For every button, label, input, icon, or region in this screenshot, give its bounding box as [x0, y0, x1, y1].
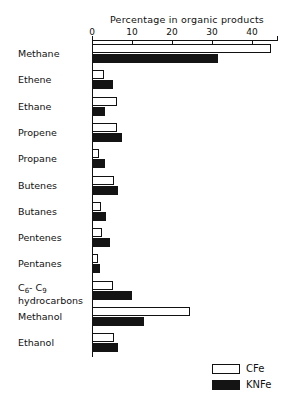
legend-label-cfe: CFe	[246, 363, 264, 374]
bar-knfe-ethane	[92, 107, 105, 116]
category-label-butanes: Butanes	[18, 206, 57, 218]
bar-knfe-methane	[92, 54, 218, 63]
category-label-pentenes: Pentenes	[18, 232, 62, 244]
x-tick-20	[172, 40, 173, 44]
category-label-pentanes: Pentanes	[18, 258, 62, 270]
x-tick-10	[132, 40, 133, 44]
bar-knfe-ethanol	[92, 343, 118, 352]
bar-knfe-propane	[92, 159, 105, 168]
bar-knfe-pentenes	[92, 238, 110, 247]
bar-cfe-pentenes	[92, 228, 102, 237]
bar-chart: Percentage in organic products 010203040…	[0, 0, 289, 408]
category-label-propene: Propene	[18, 127, 57, 139]
plot-area	[92, 41, 277, 357]
bar-knfe-butenes	[92, 186, 118, 195]
category-label-butenes: Butenes	[18, 180, 57, 192]
bar-cfe-ethanol	[92, 333, 114, 342]
bar-cfe-propene	[92, 123, 117, 132]
legend-label-knfe: KNFe	[246, 379, 271, 390]
bar-cfe-butenes	[92, 176, 114, 185]
x-tick-label-20: 20	[166, 27, 177, 37]
bar-cfe-propane	[92, 149, 99, 158]
x-tick-40	[252, 40, 253, 44]
bar-cfe-pentanes	[92, 254, 98, 263]
category-label-ethene: Ethene	[18, 74, 51, 86]
bar-knfe-pentanes	[92, 264, 100, 273]
category-label-methane: Methane	[18, 48, 59, 60]
bar-cfe-methane	[92, 44, 271, 53]
category-label-ethane: Ethane	[18, 101, 51, 113]
bar-knfe-ethene	[92, 80, 113, 89]
category-labels: MethaneEtheneEthanePropenePropaneButenes…	[0, 41, 88, 357]
category-label-ethanol: Ethanol	[18, 337, 54, 349]
bar-knfe-propene	[92, 133, 122, 142]
legend-swatch-cfe	[212, 364, 240, 374]
bar-cfe-butanes	[92, 202, 101, 211]
bar-knfe-methanol	[92, 317, 144, 326]
x-tick-label-40: 40	[246, 27, 257, 37]
x-axis-end-cap	[277, 36, 278, 41]
x-axis-title: Percentage in organic products	[92, 14, 282, 25]
bar-cfe-methanol	[92, 307, 190, 316]
category-label-propane: Propane	[18, 153, 57, 165]
bar-knfe-c6-c9-hydrocarbons	[92, 291, 132, 300]
bar-cfe-c6-c9-hydrocarbons	[92, 281, 113, 290]
bar-cfe-ethane	[92, 97, 117, 106]
x-axis-tick-labels: 010203040	[0, 27, 289, 39]
bar-knfe-butanes	[92, 212, 106, 221]
x-tick-0	[92, 36, 93, 41]
legend-swatch-knfe	[212, 380, 240, 390]
x-tick-label-10: 10	[126, 27, 137, 37]
bar-cfe-ethene	[92, 70, 104, 79]
category-label-methanol: Methanol	[18, 311, 62, 323]
x-tick-30	[212, 40, 213, 44]
x-tick-label-30: 30	[206, 27, 217, 37]
category-label-c6-c9-hydrocarbons: C6- C9hydrocarbons	[18, 282, 83, 307]
